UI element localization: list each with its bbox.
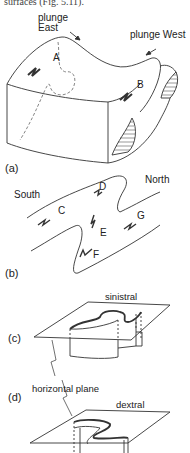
panel-label-a: (a) — [5, 162, 18, 174]
label-south: South — [14, 189, 40, 200]
label-sinistral: sinistral — [105, 291, 137, 302]
label-plunge-west: plunge West — [130, 29, 186, 40]
panel-label-d: (d) — [8, 391, 21, 403]
label-B: B — [137, 79, 144, 90]
label-C: C — [58, 205, 65, 216]
label-dextral: dextral — [116, 399, 145, 410]
label-G: G — [137, 210, 145, 221]
panel-c-sinistral — [34, 302, 170, 376]
panel-label-b: (b) — [5, 267, 18, 279]
label-F: F — [93, 249, 99, 260]
label-north: North — [145, 174, 169, 185]
panel-a-block — [7, 32, 178, 163]
label-E: E — [100, 227, 107, 238]
label-A: A — [53, 52, 60, 63]
panel-label-c: (c) — [8, 332, 21, 344]
label-plunge-east-2: East — [38, 22, 58, 33]
fold-diagram: plunge East plunge West A B (a) South No… — [0, 0, 190, 453]
label-D: D — [99, 181, 106, 192]
label-horizontal-plane: horizontal plane — [32, 383, 99, 394]
